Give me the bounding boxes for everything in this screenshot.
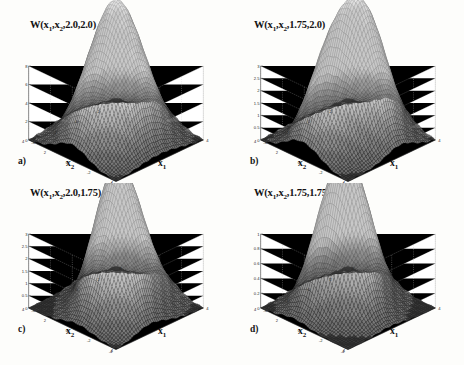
panel-b-title-suffix: ,1.75,2.0) <box>287 19 325 30</box>
panel-d-surface-svg: 00.20.40.60.81420-2-4-4-202444 <box>260 204 456 322</box>
svg-text:-2: -2 <box>87 338 91 343</box>
panel-d-title-prefix: W(x <box>254 187 273 198</box>
svg-text:2: 2 <box>44 150 47 155</box>
panel-d-xlabel-left: x2 <box>298 326 306 339</box>
panel-a-xlabel-right-sub: 1 <box>163 163 167 171</box>
svg-text:2: 2 <box>276 318 279 323</box>
svg-text:3: 3 <box>25 232 28 237</box>
panel-b-title: W(x1,x2,1.75,2.0) <box>254 19 325 33</box>
panel-b-surface-svg: 00.511.522.53420-2-4-4-202444 <box>260 36 456 154</box>
svg-text:2: 2 <box>257 88 260 93</box>
svg-text:-2: -2 <box>319 170 323 175</box>
panel-c-title: W(x1,x2,2.0,1.75) <box>30 187 101 201</box>
panel-d: W(x1,x2,1.75,1.75) 00.20.40.60.81420-2-4… <box>232 183 464 365</box>
svg-text:6: 6 <box>25 82 28 87</box>
panel-c: W(x1,x2,2.0,1.75) 00.511.522.53420-2-4-4… <box>0 183 232 365</box>
svg-text:4: 4 <box>206 138 209 143</box>
svg-text:4: 4 <box>206 306 209 311</box>
panel-b-xlabel-right: x1 <box>390 158 398 171</box>
panel-a: W(x1,x2,2.0,2.0) 02468420-2-4-4-202444 a… <box>0 0 232 183</box>
svg-text:0.2: 0.2 <box>254 291 260 296</box>
panel-c-xlabel-left: x2 <box>66 326 74 339</box>
svg-text:0.4: 0.4 <box>254 276 260 281</box>
svg-text:1.5: 1.5 <box>22 269 28 274</box>
panel-a-surface-svg: 02468420-2-4-4-202444 <box>28 36 224 154</box>
panel-d-xlabel-right: x1 <box>390 326 398 339</box>
svg-text:2: 2 <box>25 256 28 261</box>
panel-b-xlabel-left: x2 <box>298 158 306 171</box>
panel-b-plot: 00.511.522.53420-2-4-4-202444 <box>260 36 456 154</box>
svg-text:0: 0 <box>25 138 28 143</box>
panel-a-xlabel-left-sub: 2 <box>71 163 75 171</box>
svg-text:1: 1 <box>257 113 260 118</box>
svg-text:0.5: 0.5 <box>254 125 260 130</box>
svg-text:-2: -2 <box>319 338 323 343</box>
panel-d-letter: d) <box>250 324 258 334</box>
panel-a-title-prefix: W(x <box>30 19 49 30</box>
svg-text:2: 2 <box>25 119 28 124</box>
panel-c-xlabel-right-sub: 1 <box>163 331 167 339</box>
panel-a-xlabel-right: x1 <box>158 158 166 171</box>
svg-text:0.6: 0.6 <box>254 261 260 266</box>
panel-b-xlabel-right-sub: 1 <box>395 163 399 171</box>
panel-a-plot: 02468420-2-4-4-202444 <box>28 36 224 154</box>
svg-text:1: 1 <box>25 281 28 286</box>
panel-a-xlabel-left: x2 <box>66 158 74 171</box>
svg-text:2: 2 <box>44 318 47 323</box>
svg-text:0.8: 0.8 <box>254 246 260 251</box>
panel-d-xlabel-left-sub: 2 <box>303 331 307 339</box>
svg-text:2.5: 2.5 <box>22 244 28 249</box>
panel-c-surface-svg: 00.511.522.53420-2-4-4-202444 <box>28 204 224 322</box>
panel-a-letter: a) <box>18 156 26 166</box>
svg-text:-2: -2 <box>87 170 91 175</box>
panel-a-title-suffix: ,2.0,2.0) <box>63 19 96 30</box>
svg-text:4: 4 <box>438 306 441 311</box>
svg-text:0: 0 <box>257 138 260 143</box>
panel-c-title-suffix: ,2.0,1.75) <box>63 187 101 198</box>
svg-text:4: 4 <box>438 138 441 143</box>
svg-text:0: 0 <box>257 306 260 311</box>
svg-text:0.5: 0.5 <box>22 293 28 298</box>
panel-d-plot: 00.20.40.60.81420-2-4-4-202444 <box>260 204 456 322</box>
svg-text:1: 1 <box>257 232 260 237</box>
panel-b-letter: b) <box>250 156 258 166</box>
panel-d-xlabel-right-sub: 1 <box>395 331 399 339</box>
svg-text:1.5: 1.5 <box>254 101 260 106</box>
panel-c-letter: c) <box>18 324 25 334</box>
svg-text:2: 2 <box>276 150 279 155</box>
panel-b: W(x1,x2,1.75,2.0) 00.511.522.53420-2-4-4… <box>232 0 464 183</box>
svg-text:2.5: 2.5 <box>254 76 260 81</box>
panel-d-title: W(x1,x2,1.75,1.75) <box>254 187 330 201</box>
svg-text:4: 4 <box>25 101 28 106</box>
figure-grid: W(x1,x2,2.0,2.0) 02468420-2-4-4-202444 a… <box>0 0 464 365</box>
panel-c-xlabel-right: x1 <box>158 326 166 339</box>
svg-text:0: 0 <box>25 306 28 311</box>
panel-c-xlabel-left-sub: 2 <box>71 331 75 339</box>
svg-text:8: 8 <box>25 64 28 69</box>
panel-b-xlabel-left-sub: 2 <box>303 163 307 171</box>
panel-c-title-prefix: W(x <box>30 187 49 198</box>
panel-b-title-prefix: W(x <box>254 19 273 30</box>
panel-c-plot: 00.511.522.53420-2-4-4-202444 <box>28 204 224 322</box>
svg-text:3: 3 <box>257 64 260 69</box>
panel-a-title: W(x1,x2,2.0,2.0) <box>30 19 96 33</box>
